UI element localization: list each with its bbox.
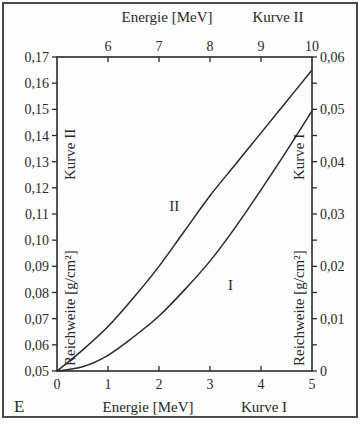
top-tick-label: 10 bbox=[305, 39, 319, 54]
left-tick-label: 0,08 bbox=[25, 286, 50, 301]
left-tick-label: 0,14 bbox=[25, 129, 50, 144]
left-axis-title: Reichweite [g/cm²] bbox=[62, 250, 78, 366]
top-axis-curve-label: Kurve II bbox=[252, 9, 303, 25]
plot-curves bbox=[57, 70, 312, 371]
range-energy-chart: 0123456789100,050,060,070,080,090,100,11… bbox=[0, 0, 364, 426]
right-tick-label: 0,03 bbox=[320, 207, 345, 222]
right-axis-title: Reichweite [g/cm²] bbox=[291, 250, 307, 366]
bottom-tick-label: 5 bbox=[309, 377, 316, 392]
curve-ii bbox=[57, 70, 312, 371]
top-tick-label: 9 bbox=[258, 39, 265, 54]
left-tick-label: 0,10 bbox=[25, 233, 50, 248]
plot-box bbox=[57, 57, 312, 371]
right-tick-label: 0,04 bbox=[320, 155, 345, 170]
right-tick-label: 0,01 bbox=[320, 312, 345, 327]
right-tick-label: 0,05 bbox=[320, 102, 345, 117]
right-axis-curve-label: Kurve I bbox=[291, 134, 307, 180]
left-axis-curve-label: Kurve II bbox=[62, 129, 78, 180]
left-tick-label: 0,13 bbox=[25, 155, 50, 170]
bottom-tick-label: 1 bbox=[105, 377, 112, 392]
bottom-tick-label: 3 bbox=[207, 377, 214, 392]
right-tick-label: 0,06 bbox=[320, 50, 345, 65]
curve-i bbox=[57, 111, 312, 371]
bottom-axis-curve-label: Kurve I bbox=[241, 399, 287, 415]
left-tick-label: 0,15 bbox=[25, 102, 50, 117]
curve-label-ii: II bbox=[169, 198, 179, 214]
bottom-tick-label: 4 bbox=[258, 377, 265, 392]
left-tick-label: 0,05 bbox=[25, 364, 50, 379]
corner-label: E bbox=[14, 397, 24, 416]
left-tick-label: 0,12 bbox=[25, 181, 50, 196]
right-tick-label: 0 bbox=[320, 364, 327, 379]
left-tick-label: 0,09 bbox=[25, 259, 50, 274]
top-axis-title: Energie [MeV] bbox=[122, 9, 213, 25]
bottom-tick-label: 2 bbox=[156, 377, 163, 392]
left-tick-label: 0,06 bbox=[25, 338, 50, 353]
bottom-tick-label: 0 bbox=[54, 377, 61, 392]
bottom-axis-title: Energie [MeV] bbox=[103, 399, 194, 415]
left-tick-label: 0,11 bbox=[25, 207, 49, 222]
plot-labels: 0123456789100,050,060,070,080,090,100,11… bbox=[14, 9, 345, 416]
top-tick-label: 8 bbox=[207, 39, 214, 54]
left-tick-label: 0,07 bbox=[25, 312, 50, 327]
top-tick-label: 6 bbox=[105, 39, 112, 54]
top-tick-label: 7 bbox=[156, 39, 163, 54]
plot-axes bbox=[52, 57, 317, 371]
left-tick-label: 0,16 bbox=[25, 76, 50, 91]
right-tick-label: 0,02 bbox=[320, 259, 345, 274]
left-tick-label: 0,17 bbox=[25, 50, 50, 65]
curve-label-i: I bbox=[228, 277, 233, 293]
